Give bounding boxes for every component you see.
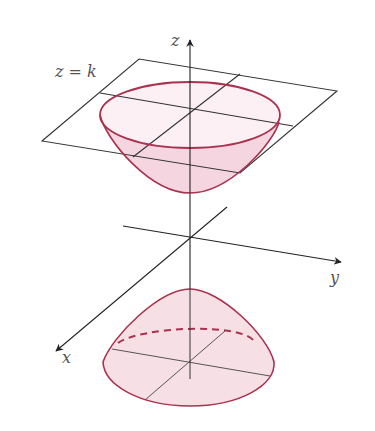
y-axis-label: y <box>330 270 339 286</box>
hyperboloid-diagram: z z = k y x <box>0 0 375 431</box>
x-axis-label: x <box>62 350 71 366</box>
y-axis <box>123 226 341 262</box>
lower-sheet <box>103 289 274 406</box>
plane-label: z = k <box>55 64 97 80</box>
z-axis-label: z <box>171 33 179 49</box>
